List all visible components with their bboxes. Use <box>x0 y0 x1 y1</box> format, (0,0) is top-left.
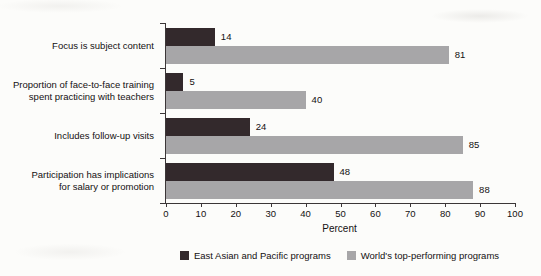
bar-east-asian-pacific <box>166 28 215 46</box>
category-label: Focus is subject content <box>0 23 160 68</box>
legend-label: East Asian and Pacific programs <box>194 250 331 261</box>
x-axis-tick <box>306 203 307 207</box>
x-axis-tick-label: 30 <box>265 209 276 219</box>
x-axis-tick-label: 60 <box>370 209 381 219</box>
value-label: 24 <box>256 122 267 132</box>
value-label: 5 <box>189 77 194 87</box>
value-label: 14 <box>221 32 232 42</box>
y-axis-tick <box>160 203 165 204</box>
bar-row-east-asian-pacific: 24 <box>166 118 515 136</box>
x-axis-tick <box>271 203 272 207</box>
category-axis-labels: Focus is subject contentProportion of fa… <box>0 23 160 203</box>
x-axis-tick-label: 20 <box>231 209 242 219</box>
value-label: 85 <box>469 140 480 150</box>
y-axis-tick <box>160 23 165 24</box>
category-label-line: Includes follow-up visits <box>0 130 154 142</box>
category-label: Includes follow-up visits <box>0 113 160 158</box>
bar-row-world-top-performing: 85 <box>166 136 515 154</box>
category-label-line: spent practicing with teachers <box>0 91 154 103</box>
legend-swatch-world-top-performing <box>347 251 356 260</box>
x-axis-tick <box>166 203 167 207</box>
x-axis-tick <box>236 203 237 207</box>
y-axis-tick <box>160 113 165 114</box>
x-axis-tick <box>375 203 376 207</box>
bar-group: 1481 <box>166 23 515 68</box>
bar-row-east-asian-pacific: 14 <box>166 28 515 46</box>
bar-group: 540 <box>166 68 515 113</box>
x-axis-tick-label: 0 <box>163 209 168 219</box>
bar-group: 4888 <box>166 158 515 203</box>
x-axis-tick-label: 50 <box>335 209 346 219</box>
x-axis-tick-label: 70 <box>405 209 416 219</box>
x-axis-tick-label: 90 <box>475 209 486 219</box>
bar-east-asian-pacific <box>166 163 334 181</box>
x-axis-tick <box>201 203 202 207</box>
category-label-line: for salary or promotion <box>0 181 154 193</box>
x-axis-tick-label: 40 <box>300 209 311 219</box>
x-axis-tick-label: 100 <box>507 209 523 219</box>
x-axis-title: Percent <box>165 223 514 234</box>
legend-swatch-east-asian-pacific <box>180 251 189 260</box>
legend-label: World's top-performing programs <box>361 250 499 261</box>
plot-area: 1481540248548880102030405060708090100 <box>165 23 515 204</box>
bar-world-top-performing <box>166 46 449 64</box>
bar-row-world-top-performing: 40 <box>166 91 515 109</box>
bar-world-top-performing <box>166 136 463 154</box>
legend-item-east-asian-pacific: East Asian and Pacific programs <box>180 250 331 261</box>
bar-east-asian-pacific <box>166 73 183 91</box>
legend-item-world-top-performing: World's top-performing programs <box>347 250 499 261</box>
bar-east-asian-pacific <box>166 118 250 136</box>
x-axis-tick <box>410 203 411 207</box>
x-axis-tick <box>515 203 516 207</box>
y-axis-tick <box>160 158 165 159</box>
y-axis-tick <box>160 68 165 69</box>
bar-row-east-asian-pacific: 5 <box>166 73 515 91</box>
bar-world-top-performing <box>166 181 473 199</box>
category-label: Participation has implicationsfor salary… <box>0 158 160 203</box>
x-axis-tick-label: 80 <box>440 209 451 219</box>
bar-chart-figure: Focus is subject contentProportion of fa… <box>0 0 541 276</box>
bar-row-world-top-performing: 88 <box>166 181 515 199</box>
category-label-line: Proportion of face-to-face training <box>0 79 154 91</box>
x-axis-tick <box>480 203 481 207</box>
x-axis-tick <box>341 203 342 207</box>
category-label-line: Participation has implications <box>0 169 154 181</box>
value-label: 40 <box>312 95 323 105</box>
category-label: Proportion of face-to-face trainingspent… <box>0 68 160 113</box>
x-axis-tick-label: 10 <box>196 209 207 219</box>
legend: East Asian and Pacific programsWorld's t… <box>165 250 514 261</box>
bar-group: 2485 <box>166 113 515 158</box>
value-label: 48 <box>340 167 351 177</box>
value-label: 88 <box>479 185 490 195</box>
x-axis-tick <box>445 203 446 207</box>
value-label: 81 <box>455 50 466 60</box>
bar-row-east-asian-pacific: 48 <box>166 163 515 181</box>
category-label-line: Focus is subject content <box>0 40 154 52</box>
bar-world-top-performing <box>166 91 306 109</box>
bar-row-world-top-performing: 81 <box>166 46 515 64</box>
